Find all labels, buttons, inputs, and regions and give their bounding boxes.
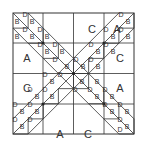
large-triangle-label: A bbox=[56, 128, 64, 140]
small-triangle-label: B bbox=[35, 108, 40, 115]
small-triangle-label: D bbox=[22, 26, 27, 33]
small-triangle-label: B bbox=[80, 78, 85, 85]
small-triangle-label: B bbox=[15, 18, 20, 25]
small-triangle-label: B bbox=[96, 48, 101, 55]
small-triangle-label: B bbox=[125, 123, 130, 130]
small-triangle-label: B bbox=[35, 93, 40, 100]
small-triangle-label: D bbox=[52, 56, 57, 63]
small-triangle-label: B bbox=[95, 93, 100, 100]
small-triangle-label: D bbox=[22, 11, 27, 18]
small-triangle-label: D bbox=[42, 71, 47, 78]
small-triangle-label: B bbox=[50, 93, 55, 100]
small-triangle-label: D bbox=[37, 41, 42, 48]
small-triangle-label: B bbox=[111, 48, 116, 55]
small-triangle-label: D bbox=[88, 41, 93, 48]
small-triangle-label: B bbox=[125, 108, 130, 115]
small-triangle-label: D bbox=[12, 116, 17, 123]
small-triangle-label: B bbox=[20, 123, 25, 130]
small-triangle-label: D bbox=[87, 86, 92, 93]
small-triangle-label: D bbox=[88, 56, 93, 63]
small-triangle-label: D bbox=[37, 26, 42, 33]
small-triangle-label: D bbox=[52, 41, 57, 48]
small-triangle-label: D bbox=[27, 101, 32, 108]
small-triangle-label: B bbox=[15, 33, 20, 40]
small-triangle-label: D bbox=[102, 86, 107, 93]
small-triangle-label: B bbox=[110, 108, 115, 115]
large-triangle-label: C bbox=[116, 52, 124, 64]
quilt-diagram: CAACCAACBDBBDBDBDBDBDDBDBDBDBDBDBDBBDBDB… bbox=[0, 0, 143, 146]
small-triangle-label: B bbox=[126, 33, 131, 40]
small-triangle-label: D bbox=[117, 126, 122, 133]
small-triangle-label: B bbox=[110, 93, 115, 100]
small-triangle-label: D bbox=[118, 11, 123, 18]
quilt-block-svg: CAACCAACBDBBDBDBDBDBDDBDBDBDBDBDBDBBDBDB… bbox=[0, 0, 143, 146]
small-triangle-label: B bbox=[65, 63, 70, 70]
small-triangle-label: D bbox=[102, 101, 107, 108]
large-triangle-label: C bbox=[88, 23, 96, 35]
small-triangle-label: B bbox=[95, 78, 100, 85]
small-triangle-label: D bbox=[42, 86, 47, 93]
small-triangle-label: D bbox=[117, 116, 122, 123]
intersection-dot bbox=[72, 72, 75, 75]
small-triangle-label: D bbox=[103, 41, 108, 48]
small-triangle-label: B bbox=[50, 78, 55, 85]
small-triangle-label: B bbox=[30, 33, 35, 40]
small-triangle-label: B bbox=[111, 33, 116, 40]
small-triangle-label: B bbox=[60, 48, 65, 55]
small-triangle-label: D bbox=[12, 101, 17, 108]
large-triangle-label: A bbox=[23, 52, 31, 64]
small-triangle-label: D bbox=[118, 26, 123, 33]
small-triangle-label: D bbox=[103, 26, 108, 33]
small-triangle-label: B bbox=[20, 108, 25, 115]
large-triangle-label: A bbox=[116, 82, 124, 94]
small-triangle-label: B bbox=[30, 18, 35, 25]
small-triangle-label: D bbox=[117, 101, 122, 108]
small-triangle-label: D bbox=[27, 86, 32, 93]
large-triangle-label: C bbox=[84, 128, 92, 140]
small-triangle-label: B bbox=[45, 48, 50, 55]
small-triangle-label: D bbox=[27, 116, 32, 123]
small-triangle-label: D bbox=[73, 56, 78, 63]
small-triangle-label: D bbox=[57, 71, 62, 78]
small-triangle-label: D bbox=[72, 86, 77, 93]
small-triangle-label: B bbox=[45, 33, 50, 40]
small-triangle-label: B bbox=[126, 18, 131, 25]
small-triangle-label: B bbox=[96, 63, 101, 70]
small-triangle-label: B bbox=[81, 63, 86, 70]
intersection-dot bbox=[41, 102, 44, 105]
